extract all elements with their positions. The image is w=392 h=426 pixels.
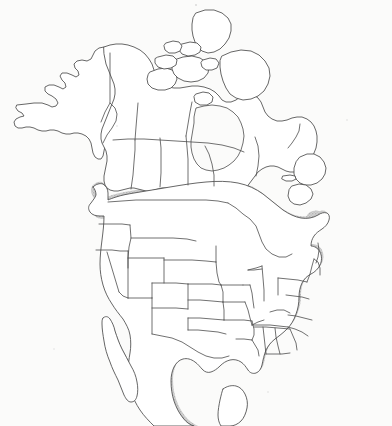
scan-speck-lower-left bbox=[53, 348, 54, 349]
coastline-prince-edward-island bbox=[282, 175, 296, 181]
scan-speck-right bbox=[346, 119, 348, 121]
scan-speck-mid-left bbox=[116, 125, 118, 127]
coastline-southampton-island bbox=[194, 92, 213, 105]
distribution-map-figure: North America distribution range map Out… bbox=[0, 0, 392, 426]
north-america-map-canvas: Outline map of North America with the Un… bbox=[0, 0, 392, 426]
scan-speck-top bbox=[195, 4, 197, 6]
coastline-arctic-island-group-c bbox=[201, 58, 219, 70]
scan-speck-bottom bbox=[267, 391, 269, 393]
coastline-arctic-island-group-d bbox=[164, 41, 182, 53]
